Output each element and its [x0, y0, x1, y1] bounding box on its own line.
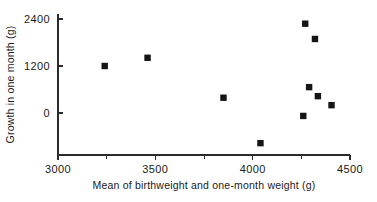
data-point-7	[315, 93, 321, 99]
data-point-9	[300, 113, 306, 119]
x-axis-title: Mean of birthweight and one-month weight…	[92, 179, 315, 191]
y-tick-label-2400: 2400	[24, 13, 50, 25]
data-point-2	[220, 95, 226, 101]
x-tick-label-3000: 3000	[45, 163, 71, 175]
data-point-1	[144, 55, 150, 61]
scatter-plot-figure: 0120024003000350040004500Mean of birthwe…	[0, 0, 377, 202]
x-tick-label-4500: 4500	[337, 163, 363, 175]
data-point-4	[302, 21, 308, 27]
y-axis-title: Growth in one month (g)	[4, 26, 16, 144]
y-tick-label-0: 0	[43, 107, 50, 119]
x-tick-label-3500: 3500	[142, 163, 168, 175]
x-tick-label-4000: 4000	[240, 163, 266, 175]
data-point-0	[102, 63, 108, 69]
y-tick-label-1200: 1200	[24, 60, 50, 72]
plot-canvas: 0120024003000350040004500Mean of birthwe…	[0, 0, 377, 202]
data-point-8	[328, 102, 334, 108]
data-point-5	[312, 36, 318, 42]
data-point-3	[257, 140, 263, 146]
data-point-6	[306, 84, 312, 90]
